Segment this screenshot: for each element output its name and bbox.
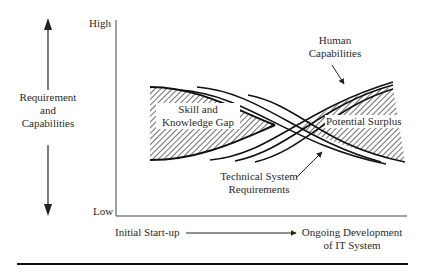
human-capabilities-label: Human Capabilities — [302, 34, 368, 60]
technical-requirements-label-line-1: Technical System — [212, 170, 306, 183]
initial-startup-label: Initial Start-up — [115, 226, 179, 239]
skill-gap-label-line-2: Knowledge Gap — [156, 116, 240, 129]
human-capabilities-pointer-icon — [332, 65, 344, 84]
skill-gap-label-line-1: Skill and — [156, 103, 240, 116]
y-axis-title-line-1: Requirement — [14, 91, 82, 104]
ongoing-development-label: Ongoing Development of IT System — [296, 226, 408, 252]
ongoing-development-label-line-1: Ongoing Development — [296, 226, 408, 239]
y-axis-title: Requirement and Capabilities — [14, 91, 82, 130]
skill-gap-label: Skill and Knowledge Gap — [156, 103, 240, 129]
y-axis-title-line-2: and — [14, 104, 82, 117]
potential-surplus-label: Potential Surplus — [325, 115, 402, 128]
human-capabilities-label-line-1: Human — [302, 34, 368, 47]
technical-requirements-label: Technical System Requirements — [212, 170, 306, 196]
human-capabilities-label-line-2: Capabilities — [302, 47, 368, 60]
y-axis-title-line-3: Capabilities — [14, 117, 82, 130]
high-label: High — [89, 17, 111, 30]
ongoing-development-label-line-2: of IT System — [296, 239, 408, 252]
technical-requirements-label-line-2: Requirements — [212, 183, 306, 196]
low-label: Low — [93, 205, 113, 218]
